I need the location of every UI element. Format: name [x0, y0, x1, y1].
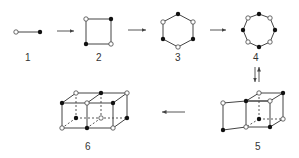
structure-3: 3	[161, 12, 195, 63]
open-vertex	[257, 91, 261, 95]
open-vertex	[161, 20, 165, 24]
open-vertex	[111, 126, 115, 130]
open-vertex	[246, 16, 250, 20]
filled-vertex	[74, 116, 78, 120]
filled-vertex	[60, 101, 64, 105]
structure-5: 5	[221, 91, 285, 152]
filled-vertex	[244, 99, 248, 103]
structure-label-4: 4	[253, 52, 259, 63]
open-vertex	[281, 117, 285, 121]
filled-vertex	[273, 28, 277, 32]
filled-vertex	[99, 91, 103, 95]
open-vertex	[125, 91, 129, 95]
open-vertex	[246, 40, 250, 44]
filled-vertex	[111, 101, 115, 105]
filled-vertex	[125, 116, 129, 120]
open-vertex	[85, 101, 89, 105]
filled-vertex	[257, 45, 261, 49]
structure-4: 4	[241, 12, 277, 63]
diagram-canvas: 1 2 3 4	[0, 0, 299, 158]
structure-label-6: 6	[85, 141, 91, 152]
open-vertex	[268, 16, 272, 20]
open-vertex	[191, 20, 195, 24]
open-vertex	[244, 125, 248, 129]
structure-label-5: 5	[255, 141, 261, 152]
filled-vertex	[161, 37, 165, 41]
filled-vertex	[241, 28, 245, 32]
filled-vertex	[109, 17, 113, 21]
filled-vertex	[85, 126, 89, 130]
filled-vertex	[268, 125, 272, 129]
open-vertex	[74, 91, 78, 95]
filled-vertex	[191, 37, 195, 41]
open-vertex	[60, 126, 64, 130]
equilibrium-arrows-icon	[255, 67, 259, 82]
open-vertex	[268, 99, 272, 103]
filled-vertex	[257, 117, 261, 121]
filled-vertex	[38, 30, 42, 34]
structure-1: 1	[14, 30, 42, 63]
open-vertex	[221, 101, 225, 105]
open-vertex	[109, 42, 113, 46]
open-vertex	[99, 116, 103, 120]
open-vertex	[176, 45, 180, 49]
open-vertex	[14, 30, 18, 34]
structure-label-2: 2	[96, 52, 102, 63]
structure-label-1: 1	[25, 52, 31, 63]
filled-vertex	[221, 128, 225, 132]
filled-vertex	[257, 12, 261, 16]
filled-vertex	[84, 42, 88, 46]
open-vertex	[268, 40, 272, 44]
structure-2: 2	[84, 17, 113, 63]
filled-vertex	[281, 91, 285, 95]
open-vertex	[84, 17, 88, 21]
structure-6: 6	[60, 91, 129, 152]
filled-vertex	[176, 12, 180, 16]
structure-label-3: 3	[175, 52, 181, 63]
